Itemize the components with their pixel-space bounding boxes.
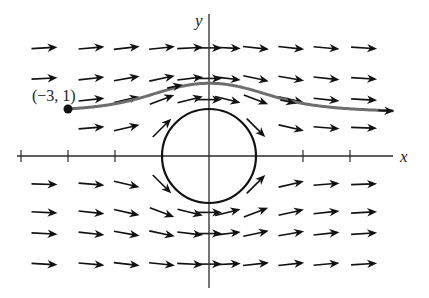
field-arrow: [278, 260, 304, 268]
field-arrow: [150, 208, 174, 218]
field-arrow: [314, 44, 340, 52]
field-arrow: [32, 208, 58, 216]
field-arrow: [32, 74, 58, 82]
field-arrow: [149, 260, 175, 268]
y-axis-label: y: [193, 11, 203, 30]
point-label: (−3, 1): [32, 87, 76, 105]
field-arrow: [114, 209, 139, 217]
field-arrow: [114, 74, 140, 82]
field-arrow: [244, 207, 268, 217]
field-arrow: [351, 124, 377, 132]
field-arrow: [149, 230, 174, 238]
field-arrow: [79, 123, 105, 131]
field-arrow: [351, 74, 377, 82]
field-arrow: [351, 208, 377, 216]
field-arrow: [278, 44, 304, 52]
field-arrow: [314, 229, 340, 237]
vector-field-plot: (−3, 1) x y: [0, 0, 429, 298]
field-arrow: [278, 75, 304, 83]
field-arrow: [314, 180, 340, 188]
field-arrow: [79, 95, 105, 103]
field-arrow: [79, 230, 105, 238]
field-arrow: [351, 229, 377, 237]
field-arrow: [314, 124, 340, 132]
field-arrow: [244, 95, 268, 105]
field-arrow: [279, 179, 304, 187]
field-arrow: [114, 260, 140, 268]
field-arrow: [79, 180, 105, 188]
field-arrow: [279, 124, 304, 132]
field-arrow: [114, 181, 139, 189]
field-arrow: [114, 230, 140, 238]
field-arrow: [149, 43, 175, 51]
field-arrow: [279, 208, 304, 216]
streamline-arrow: [378, 106, 394, 114]
field-arrow: [114, 123, 139, 131]
field-arrow: [351, 44, 377, 52]
field-arrow: [314, 75, 340, 83]
vector-field-figure: (−3, 1) x y: [0, 0, 429, 298]
streamline-curve: [68, 83, 392, 110]
start-point-dot: [64, 105, 73, 114]
field-arrow: [351, 260, 377, 268]
field-arrow: [243, 260, 269, 268]
field-arrow: [79, 74, 105, 82]
field-arrow: [351, 96, 377, 104]
field-arrow: [149, 74, 174, 82]
field-arrow: [314, 208, 340, 216]
field-arrow: [150, 95, 174, 105]
field-arrow: [314, 260, 340, 268]
x-axis-label: x: [399, 147, 408, 166]
field-arrow: [32, 230, 58, 238]
field-arrow: [79, 260, 105, 268]
field-arrow: [351, 180, 377, 188]
field-arrow: [278, 229, 304, 237]
field-arrow: [79, 43, 105, 51]
field-arrow: [32, 44, 58, 52]
field-arrow: [243, 229, 268, 237]
field-arrow: [215, 260, 241, 268]
field-arrow: [243, 75, 268, 83]
field-arrow: [32, 260, 58, 268]
field-arrow: [215, 44, 241, 52]
field-arrow: [243, 44, 269, 52]
field-arrow: [314, 96, 340, 104]
field-arrow: [79, 209, 105, 217]
field-arrow: [32, 180, 58, 188]
field-arrow: [114, 43, 140, 51]
